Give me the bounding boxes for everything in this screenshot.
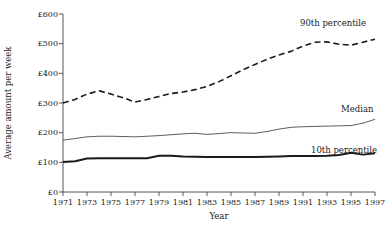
series-label-median: Median	[341, 104, 374, 114]
xtick-label-1991: 1991	[293, 198, 313, 207]
xtick-label-1993: 1993	[317, 198, 337, 207]
ytick-label-0: £0	[48, 188, 58, 197]
xtick-label-1975: 1975	[101, 198, 121, 207]
xtick-label-1985: 1985	[221, 198, 241, 207]
series-label-90th-percentile: 90th percentile	[300, 18, 366, 28]
chart-container: £600 £500 £400 £300 £200 £100 £0 1971197…	[0, 0, 390, 237]
xtick-label-1995: 1995	[341, 198, 361, 207]
xtick-label-1979: 1979	[149, 198, 169, 207]
series-label-10th-percentile: 10th percentile	[311, 145, 377, 155]
ytick-label-600: £600	[38, 10, 58, 19]
xtick-label-1983: 1983	[197, 198, 217, 207]
xtick-label-1973: 1973	[77, 198, 97, 207]
xtick-label-1971: 1971	[53, 198, 73, 207]
line-chart: £600 £500 £400 £300 £200 £100 £0 1971197…	[0, 0, 390, 237]
ytick-label-500: £500	[38, 39, 58, 48]
xtick-label-1987: 1987	[245, 198, 265, 207]
xtick-label-1981: 1981	[173, 198, 193, 207]
y-axis-title: Average amount per week	[3, 46, 13, 161]
x-axis-title: Year	[208, 211, 229, 221]
ytick-label-300: £300	[38, 99, 58, 108]
xtick-label-1977: 1977	[125, 198, 145, 207]
ytick-label-400: £400	[38, 69, 58, 78]
xtick-label-1997: 1997	[365, 198, 385, 207]
ytick-label-100: £100	[38, 158, 58, 167]
xtick-label-1989: 1989	[269, 198, 289, 207]
ytick-label-200: £200	[38, 128, 58, 137]
